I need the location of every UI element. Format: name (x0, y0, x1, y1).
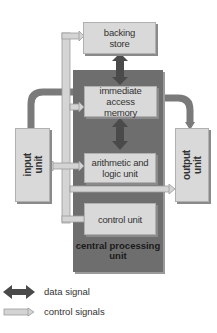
input-unit-box: input unit (15, 128, 50, 202)
input-unit-label-2: unit (33, 153, 44, 176)
backing-store-label-1: backing (104, 27, 135, 38)
control-unit-box: control unit (84, 203, 156, 235)
data-arrow-memory-alu (112, 118, 128, 150)
alu-box: arithmetic and logic unit (84, 153, 156, 183)
alu-label-2: logic unit (92, 168, 149, 179)
control-unit-label: control unit (98, 214, 142, 225)
output-unit-box: output unit (175, 128, 209, 202)
legend-control-signal-icon (4, 308, 34, 316)
control-bus-vertical (62, 33, 70, 223)
input-unit-label-1: input (22, 153, 33, 176)
backing-store-label-2: store (104, 38, 135, 49)
memory-label-1: immediate access (85, 85, 156, 107)
data-arrow-backing-memory (112, 53, 128, 85)
backing-store-box: backing store (83, 22, 156, 54)
alu-label-1: arithmetic and (92, 157, 149, 168)
output-unit-label-2: unit (192, 150, 203, 180)
cpu-label-2: unit (73, 251, 163, 261)
legend-data-signal-icon (3, 285, 35, 299)
legend-control-signals-label: control signals (44, 306, 105, 317)
legend-data-signal-label: data signal (44, 286, 90, 297)
immediate-access-memory-box: immediate access memory (84, 86, 157, 117)
output-unit-label-1: output (181, 150, 192, 180)
memory-label-2: memory (85, 107, 156, 118)
cpu-label: central processing unit (73, 241, 163, 261)
